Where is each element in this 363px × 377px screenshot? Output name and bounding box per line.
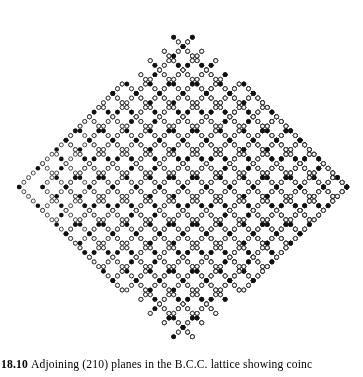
figure-caption-line: 18.10 Adjoining (210) planes in the B.C.…	[0, 352, 363, 377]
figure-caption: 18.10 Adjoining (210) planes in the B.C.…	[0, 352, 363, 377]
figure-root: 18.10 Adjoining (210) planes in the B.C.…	[0, 0, 363, 377]
bcc-210-lattice-diagram	[0, 0, 363, 353]
figure-number: 18.10	[1, 358, 28, 371]
figure-caption-text: Adjoining (210) planes in the B.C.C. lat…	[31, 358, 312, 371]
